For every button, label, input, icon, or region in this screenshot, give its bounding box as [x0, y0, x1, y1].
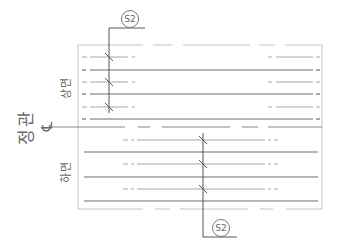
centerline-symbol: ℄ [40, 122, 55, 132]
section-tag-top: S2 [121, 10, 139, 28]
rebar-diagram: S2 S2 정관 ℄ 상면 하면 [0, 0, 343, 251]
lower-dashed-bars [123, 140, 278, 189]
lower-solid-bars [84, 152, 318, 201]
upper-dashed-bars [82, 57, 320, 107]
main-label: 정관 [18, 109, 35, 145]
upper-surface-label: 상면 [61, 77, 72, 99]
upper-solid-bars [82, 70, 320, 119]
lower-surface-label: 하면 [61, 161, 72, 183]
section-tag-bottom: S2 [212, 219, 230, 237]
